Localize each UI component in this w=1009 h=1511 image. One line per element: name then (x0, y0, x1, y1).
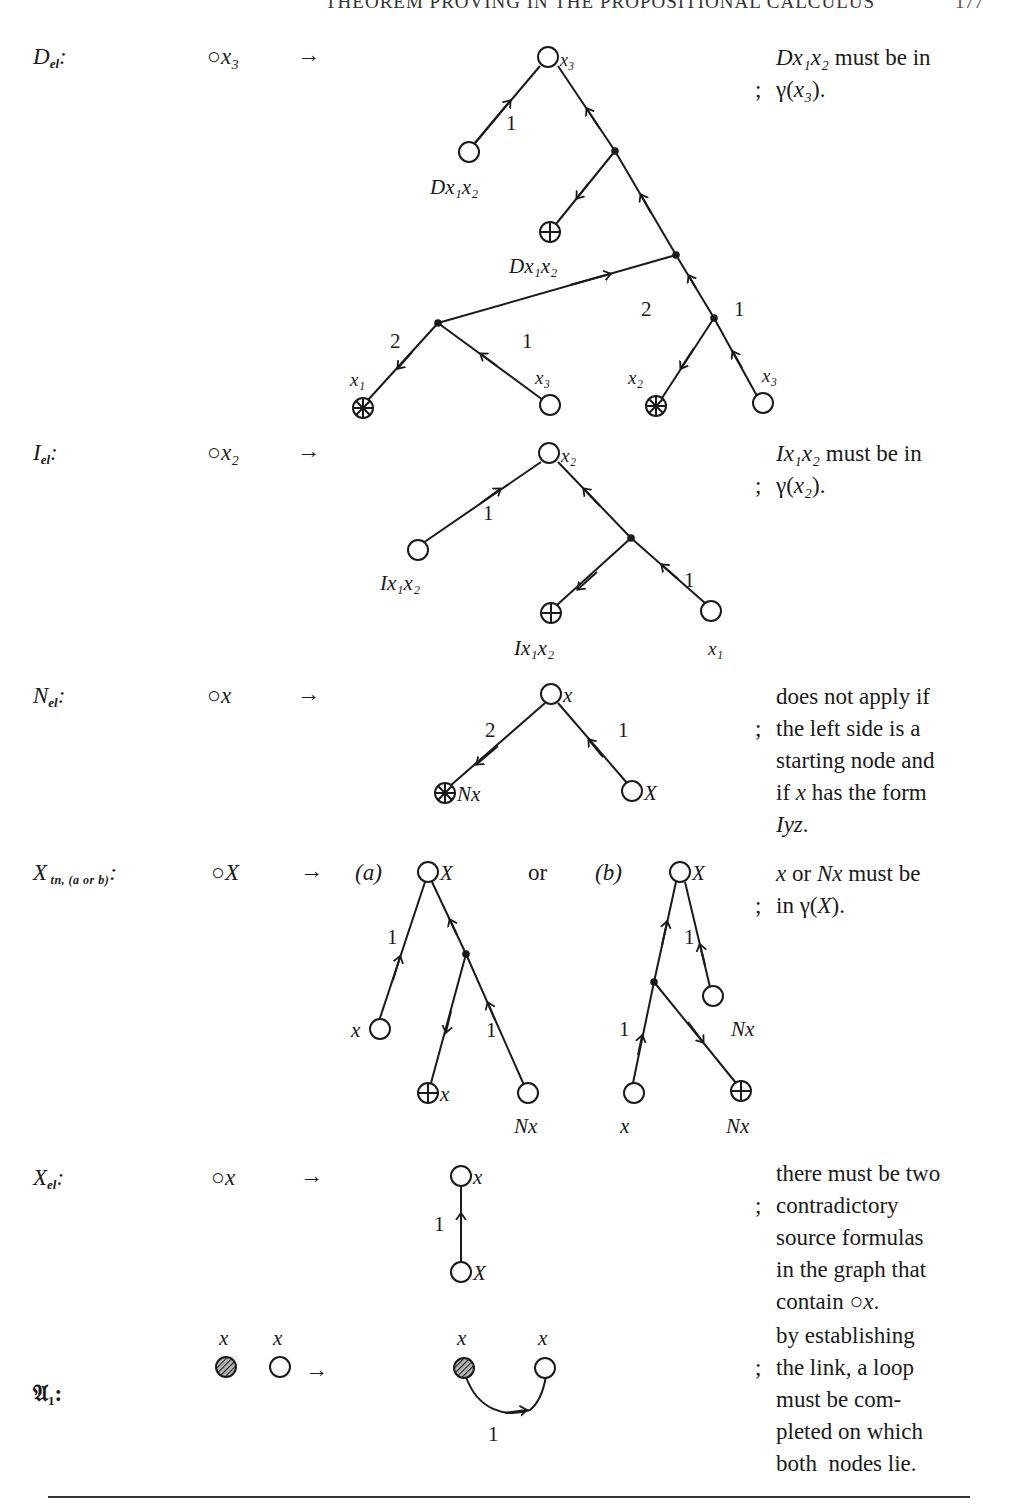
graph-x-el (451, 1166, 471, 1282)
svg-text:2: 2 (485, 718, 496, 742)
svg-text:1: 1 (618, 718, 629, 742)
svg-text:x: x (218, 1326, 229, 1350)
svg-text:X: X (691, 861, 706, 885)
svg-text:x₂: x₂ (560, 445, 576, 466)
plus-node (540, 222, 560, 242)
svg-text:x: x (272, 1326, 283, 1350)
rule-diagrams: x₃ 1 Dx₁x₂ Dx₁x₂ 2 1 2 1 x₁ x₃ x₂ x₃ x₂ … (0, 0, 1009, 1511)
graph-i-el (408, 443, 721, 623)
plus-node (418, 1083, 438, 1103)
svg-text:x₁: x₁ (349, 369, 365, 390)
graph-a-1 (216, 1357, 555, 1413)
svg-text:1: 1 (522, 329, 533, 353)
svg-text:Dx₁x₂: Dx₁x₂ (429, 175, 478, 199)
svg-text:Nx: Nx (456, 782, 481, 806)
svg-text:X: X (439, 861, 454, 885)
svg-text:x: x (456, 1326, 467, 1350)
svg-text:Nx: Nx (725, 1114, 750, 1138)
svg-text:1: 1 (684, 925, 695, 949)
svg-text:X: X (643, 781, 658, 805)
svg-text:x: x (439, 1082, 450, 1106)
cross-node (353, 398, 373, 418)
svg-text:x: x (619, 1114, 630, 1138)
svg-text:x₃: x₃ (761, 365, 777, 386)
svg-text:x: x (350, 1018, 361, 1042)
svg-text:1: 1 (483, 501, 494, 525)
svg-text:1: 1 (619, 1017, 630, 1041)
svg-text:1: 1 (434, 1212, 445, 1236)
svg-text:x₂: x₂ (627, 367, 643, 388)
cross-node (435, 783, 455, 803)
svg-text:1: 1 (684, 568, 695, 592)
svg-text:1: 1 (734, 297, 745, 321)
graph-d-el (353, 47, 773, 418)
svg-text:X: X (472, 1261, 487, 1285)
svg-text:x: x (562, 683, 573, 707)
svg-text:2: 2 (641, 297, 652, 321)
graph-x-tn-b (624, 862, 751, 1103)
plus-node (731, 1081, 751, 1101)
svg-text:2: 2 (390, 329, 401, 353)
cross-node (646, 396, 666, 416)
bottom-rule (48, 1496, 970, 1498)
svg-text:Ix₁x₂: Ix₁x₂ (379, 571, 420, 595)
svg-text:1: 1 (387, 925, 398, 949)
plus-node (541, 603, 561, 623)
svg-text:x₃: x₃ (559, 50, 574, 70)
svg-text:1: 1 (488, 1422, 499, 1446)
svg-text:Nx: Nx (513, 1114, 538, 1138)
svg-text:x₁: x₁ (707, 638, 723, 659)
svg-text:x: x (537, 1326, 548, 1350)
svg-text:1: 1 (486, 1018, 497, 1042)
graph-x-tn-a (370, 862, 538, 1103)
svg-text:x: x (472, 1165, 483, 1189)
svg-text:Nx: Nx (730, 1017, 755, 1041)
svg-text:Dx₁x₂: Dx₁x₂ (508, 254, 557, 278)
svg-text:x₃: x₃ (534, 367, 550, 388)
svg-text:Ix₁x₂: Ix₁x₂ (513, 636, 554, 660)
svg-text:1: 1 (506, 111, 517, 135)
